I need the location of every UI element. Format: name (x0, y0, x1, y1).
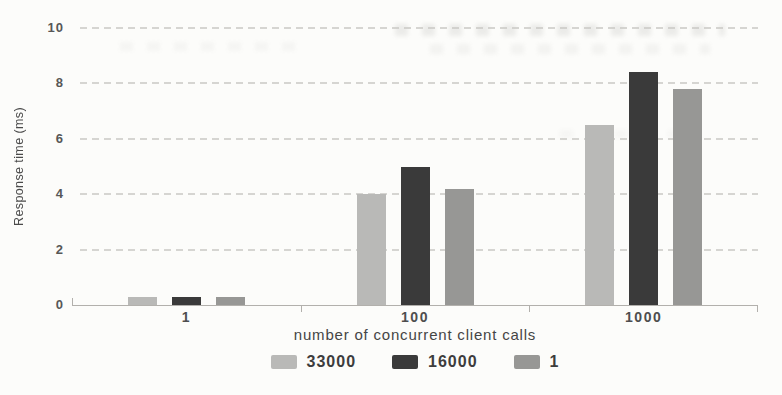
legend-item-16000: 16000 (392, 353, 478, 371)
bar-series-1-category-100 (445, 189, 474, 305)
axis-tick (72, 298, 73, 305)
y-tick-label-4: 4 (56, 186, 64, 202)
bar-series-33000-category-1 (128, 297, 157, 305)
y-tick-label-6: 6 (56, 131, 64, 147)
x-category-label-1: 1 (141, 309, 231, 325)
y-tick-label-0: 0 (56, 297, 64, 313)
legend: 33000160001 (72, 353, 758, 371)
plot-area (72, 28, 758, 305)
bar-series-1-category-1000 (673, 89, 702, 305)
y-tick-label-8: 8 (56, 75, 64, 91)
bar-series-33000-category-1000 (585, 125, 614, 305)
legend-label-16000: 16000 (428, 353, 478, 371)
legend-swatch-16000 (392, 355, 418, 369)
bar-series-16000-category-100 (401, 167, 430, 306)
legend-item-33000: 33000 (271, 353, 357, 371)
x-category-label-100: 100 (370, 309, 460, 325)
x-axis-title: number of concurrent client calls (72, 326, 758, 343)
legend-swatch-33000 (271, 355, 297, 369)
y-tick-label-2: 2 (56, 242, 64, 258)
x-category-label-1000: 1000 (599, 309, 689, 325)
legend-swatch-1 (514, 355, 540, 369)
bar-series-16000-category-1000 (629, 72, 658, 305)
gridline-10 (80, 27, 758, 29)
bar-series-1-category-1 (216, 297, 245, 305)
legend-label-1: 1 (550, 353, 560, 371)
bar-series-16000-category-1 (172, 297, 201, 305)
bar-series-33000-category-100 (357, 194, 386, 305)
x-axis-line (72, 305, 758, 306)
chart-figure: Response time (ms) 0246810 11001000 numb… (0, 0, 782, 395)
y-tick-label-10: 10 (48, 20, 64, 36)
legend-item-1: 1 (514, 353, 560, 371)
y-axis-tick-labels: 0246810 (0, 28, 64, 305)
legend-label-33000: 33000 (307, 353, 357, 371)
x-axis-labels: 11001000 (72, 309, 758, 327)
